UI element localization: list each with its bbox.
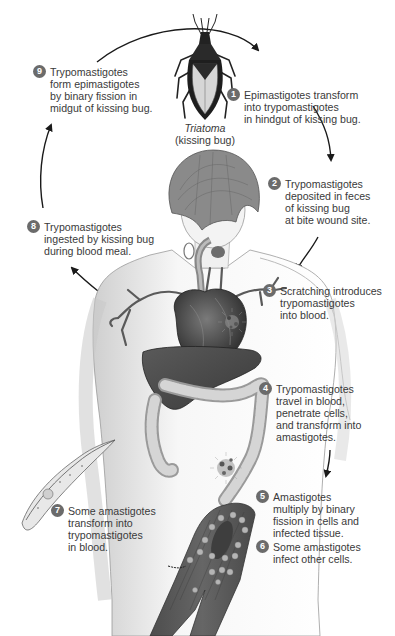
arrow-9-to-1 — [97, 29, 258, 62]
step-badge: 7 — [51, 504, 64, 517]
step-badge: 5 — [256, 490, 269, 503]
step-4: 4 Trypomastigotes travel in blood, penet… — [276, 383, 361, 443]
earring — [184, 243, 194, 259]
kissing-bug — [175, 14, 235, 120]
kissing-bug-caption: Triatoma (kissing bug) — [168, 122, 242, 146]
step-5: 5 Amastigotes multiply by binary fission… — [273, 491, 359, 539]
step-badge: 9 — [33, 65, 46, 78]
arrow-bite-to-8 — [72, 268, 98, 291]
chagas-life-cycle-diagram: Triatoma (kissing bug) 1 Epimastigotes t… — [0, 0, 395, 636]
step-3: 3 Scratching introduces trypomastigotes … — [280, 285, 382, 321]
step-badge: 2 — [268, 177, 281, 190]
vector-genus: Triatoma — [168, 122, 242, 134]
arrow-4-to-5 — [326, 450, 330, 476]
vector-common-name: (kissing bug) — [168, 134, 242, 146]
step-7: 7 Some amastigotes transform into trypom… — [68, 505, 156, 553]
step-badge: 4 — [259, 382, 272, 395]
step-badge: 1 — [227, 88, 240, 101]
step-2: 2 Trypomastigotes deposited in feces of … — [285, 178, 370, 226]
arrow-2-to-3 — [297, 237, 318, 270]
step-badge: 8 — [27, 220, 40, 233]
step-badge: 3 — [263, 284, 276, 297]
step-8: 8 Trypomastigotes ingested by kissing bu… — [44, 221, 154, 257]
arrow-8-to-9 — [41, 125, 51, 208]
step-6: 6 Some amastigotes infect other cells. — [273, 541, 361, 565]
step-badge: 6 — [256, 540, 269, 553]
step-1: 1 Epimastigotes transform into trypomast… — [244, 89, 361, 125]
step-9: 9 Trypomastigotes form epimastigotes by … — [50, 66, 152, 114]
